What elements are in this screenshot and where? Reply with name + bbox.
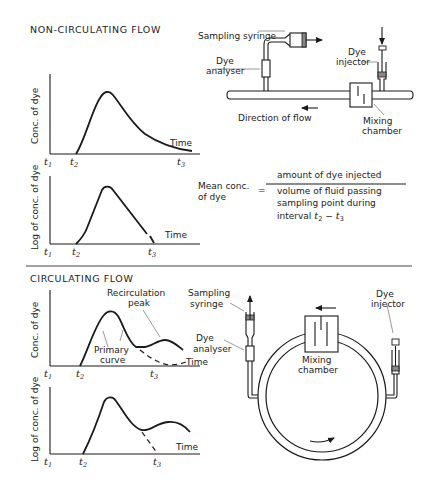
tick-t2: t2 xyxy=(76,368,84,381)
section-title-circulating: CIRCULATING FLOW xyxy=(30,273,133,284)
formula-numerator: amount of dye injected xyxy=(277,170,382,180)
dye-analyser-label-2: analyser xyxy=(206,66,245,76)
y-axis-label: Log of conc. of dye xyxy=(30,164,40,250)
dye-analyser xyxy=(246,346,254,361)
tick-t3: t3 xyxy=(153,456,161,469)
tick-t1: t1 xyxy=(44,246,52,259)
mixing-chamber-label-1: Mixing xyxy=(363,116,393,126)
dye-injector: Dye injector xyxy=(336,27,386,91)
formula-denominator-2: sampling point during xyxy=(277,198,376,208)
tick-t2: t2 xyxy=(70,156,78,169)
x-axis-label: Time xyxy=(185,357,208,367)
recirculation-label-1: Recirculation xyxy=(107,288,165,298)
circ-apparatus: Mixing chamber Sampling syringe Dye anal… xyxy=(188,288,405,460)
tick-t2: t2 xyxy=(72,246,80,259)
log-dye-curve xyxy=(76,187,147,244)
formula-equals: = xyxy=(258,185,266,195)
log-primary-extrapolation xyxy=(142,432,157,453)
tick-t3: t3 xyxy=(177,156,185,169)
y-axis-label: Conc. of dye xyxy=(30,87,40,144)
formula-denominator-1: volume of fluid passing xyxy=(277,186,382,196)
sampling-label-2: syringe xyxy=(190,299,224,309)
dye-analyser-and-syringe: Sampling syringe Dye analyser xyxy=(198,31,322,91)
dye-injector-label-2: injector xyxy=(371,299,405,309)
dye-injector-label-2: injector xyxy=(336,57,370,67)
dye-analyser-label-1: Dye xyxy=(196,333,214,343)
pipe xyxy=(230,91,410,99)
dye-injector-label-1: Dye xyxy=(376,289,394,299)
graph-circ-linear: Recirculation peak Primary curve Time Co… xyxy=(30,288,208,381)
sampling-label-1: Sampling xyxy=(188,288,230,298)
x-axis-label: Time xyxy=(175,442,198,452)
pipe-end-right xyxy=(410,91,413,99)
tick-t1: t1 xyxy=(44,456,52,469)
log-recirculation-curve xyxy=(83,397,190,454)
dye-analyser-label-2: analyser xyxy=(193,344,232,354)
formula-lhs-2: of dye xyxy=(198,192,227,202)
graph-noncirc-log: Log of conc. of dye Time t1 t2 t3 xyxy=(30,164,200,259)
tick-t2: t2 xyxy=(79,456,87,469)
mixing-chamber-label-2: chamber xyxy=(298,365,338,375)
flow-arrow-bottom xyxy=(310,438,334,442)
y-axis-label: Log of conc. of dye xyxy=(30,376,40,462)
recirculation-curve xyxy=(80,311,183,366)
mixing-chamber xyxy=(350,83,372,107)
x-axis-label: Time xyxy=(164,230,187,240)
recirculation-label-2: peak xyxy=(128,298,151,308)
dye-analyser-label-1: Dye xyxy=(216,56,234,66)
primary-curve-extrapolation xyxy=(140,350,186,365)
mixing-chamber-label-1: Mixing xyxy=(302,355,332,365)
section-title-non-circulating: NON-CIRCULATING FLOW xyxy=(30,24,161,35)
mean-conc-formula: Mean conc. of dye = amount of dye inject… xyxy=(198,170,406,223)
formula-denominator-3: interval t2 − t3 xyxy=(277,210,344,223)
pipe-end-left xyxy=(227,91,230,99)
log-dye-curve-tail xyxy=(150,236,154,243)
direction-label: Direction of flow xyxy=(238,113,312,123)
primary-curve-label-2: curve xyxy=(100,355,126,365)
sampling-assembly: Sampling syringe Dye analyser xyxy=(188,288,258,398)
tick-t1: t1 xyxy=(44,368,52,381)
mixing-chamber-label-2: chamber xyxy=(362,126,402,136)
tick-t3: t3 xyxy=(150,368,158,381)
x-axis-label: Time xyxy=(169,138,192,148)
graph-circ-log: Time Log of conc. of dye t1 t2 t3 xyxy=(30,376,200,469)
y-axis-label: Conc. of dye xyxy=(30,301,40,358)
formula-lhs-1: Mean conc. xyxy=(198,181,249,191)
dye-analyser xyxy=(262,60,270,77)
tick-t3: t3 xyxy=(148,246,156,259)
tick-t1: t1 xyxy=(44,156,52,169)
circulating-section: CIRCULATING FLOW Recirculation peak Prim… xyxy=(30,273,405,469)
primary-curve-label-1: Primary xyxy=(94,345,129,355)
sampling-syringe-label: Sampling syringe xyxy=(198,31,277,41)
graph-noncirc-linear: Conc. of dye Time t1 t2 t3 xyxy=(30,74,200,169)
non-circulating-section: NON-CIRCULATING FLOW Conc. of dye Time t… xyxy=(30,24,413,259)
dye-injector-label-1: Dye xyxy=(348,47,366,57)
noncirc-apparatus: Mixing chamber Dye injector xyxy=(198,27,413,136)
dye-dilution-diagram: NON-CIRCULATING FLOW Conc. of dye Time t… xyxy=(0,0,429,485)
